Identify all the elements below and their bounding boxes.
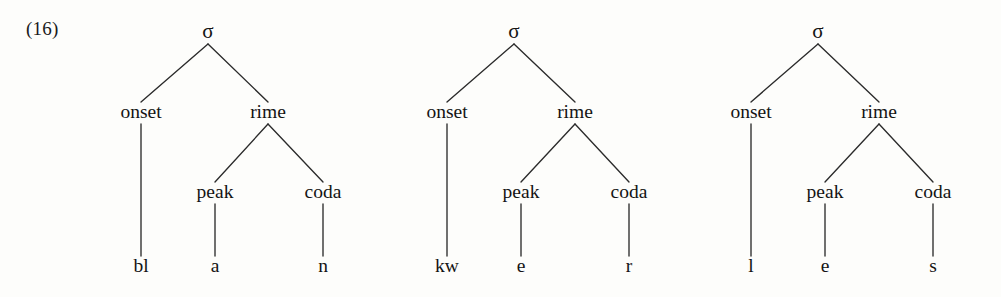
rime-node-label: rime (557, 101, 593, 122)
edge-rime-peak (521, 124, 575, 182)
edge-rime-coda (268, 124, 323, 182)
sigma-node-label: σ (508, 19, 519, 43)
onset-node-label: onset (426, 101, 468, 122)
sigma-node-label: σ (812, 19, 823, 43)
syllable-trees-canvas: σonsetrimepeakcodablanσonsetrimepeakcoda… (0, 0, 1001, 297)
coda-node-label: coda (915, 181, 952, 202)
peak-node-label: peak (807, 181, 844, 202)
syllable-tree-les: σonsetrimepeakcodales (730, 19, 951, 276)
coda-node-label: coda (611, 181, 648, 202)
onset-segment-label: kw (435, 255, 459, 276)
coda-segment-label: s (929, 255, 937, 276)
edge-rime-peak (215, 124, 268, 182)
rime-node-label: rime (250, 101, 286, 122)
edge-sigma-onset (141, 44, 208, 102)
syllable-tree-blan: σonsetrimepeakcodablan (120, 19, 341, 276)
syllable-tree-kwer: σonsetrimepeakcodakwer (426, 19, 647, 276)
rime-node-label: rime (861, 101, 897, 122)
trees-group: σonsetrimepeakcodablanσonsetrimepeakcoda… (120, 19, 951, 276)
onset-node-label: onset (730, 101, 772, 122)
edge-rime-coda (879, 124, 933, 182)
coda-segment-label: n (318, 255, 328, 276)
edge-sigma-onset (447, 44, 514, 102)
edge-sigma-rime (818, 44, 879, 102)
peak-node-label: peak (503, 181, 540, 202)
syllable-structure-figure: (16) σonsetrimepeakcodablanσonsetrimepea… (0, 0, 1001, 297)
onset-node-label: onset (120, 101, 162, 122)
coda-segment-label: r (626, 255, 633, 276)
edge-sigma-onset (751, 44, 818, 102)
coda-node-label: coda (305, 181, 342, 202)
onset-segment-label: bl (133, 255, 149, 276)
edge-rime-peak (825, 124, 879, 182)
edge-rime-coda (575, 124, 629, 182)
onset-segment-label: l (748, 255, 754, 276)
peak-segment-label: a (211, 255, 220, 276)
peak-segment-label: e (821, 255, 830, 276)
peak-node-label: peak (197, 181, 234, 202)
edge-sigma-rime (514, 44, 575, 102)
peak-segment-label: e (517, 255, 526, 276)
sigma-node-label: σ (202, 19, 213, 43)
edge-sigma-rime (208, 44, 268, 102)
